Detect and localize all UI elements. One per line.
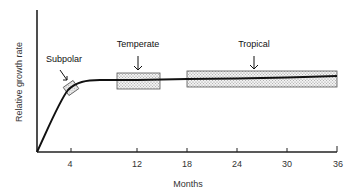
x-tick-label: 36	[333, 159, 343, 169]
tropical-arrow-icon	[250, 56, 258, 69]
x-tick-label: 24	[232, 159, 242, 169]
growth-curve	[37, 76, 337, 152]
x-tick-label: 18	[182, 159, 192, 169]
temperate-label: Temperate	[117, 39, 160, 49]
x-tick-label: 12	[132, 159, 142, 169]
growth-rate-chart: 4 12 18 24 30 36 Months Relative growth …	[0, 0, 354, 196]
subpolar-label: Subpolar	[46, 54, 82, 64]
tropical-label: Tropical	[238, 39, 270, 49]
temperate-arrow-icon	[134, 56, 142, 70]
subpolar-arrow-icon	[60, 70, 67, 80]
y-axis-label: Relative growth rate	[14, 42, 24, 122]
x-ticks	[71, 146, 337, 152]
x-tick-label: 4	[67, 159, 72, 169]
x-axis-label: Months	[173, 179, 203, 189]
x-tick-label: 30	[282, 159, 292, 169]
